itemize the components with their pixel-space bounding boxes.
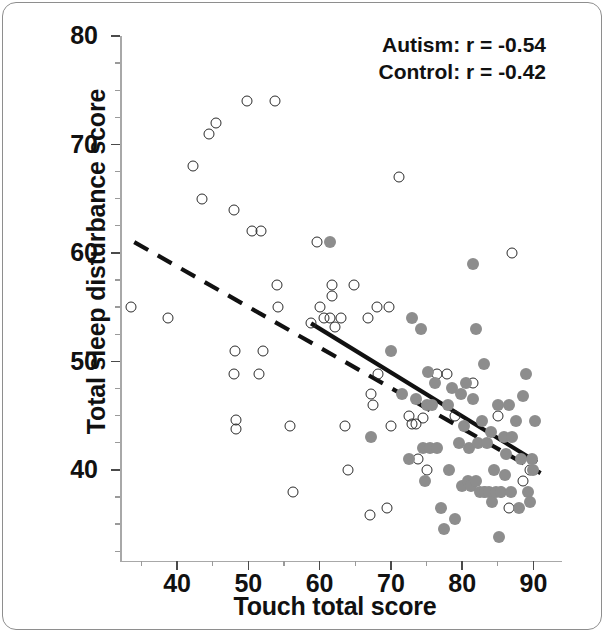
data-point-control	[382, 502, 393, 513]
data-point-control	[363, 312, 374, 323]
figure-container: Total sleep disturbance score Touch tota…	[0, 0, 607, 634]
legend-control: Control: r = -0.42	[379, 59, 546, 86]
data-point-autism	[365, 431, 377, 443]
data-point-control	[229, 204, 240, 215]
x-tick-label-40: 40	[163, 569, 191, 598]
data-point-autism	[510, 415, 522, 427]
data-point-control	[507, 247, 518, 258]
data-point-autism	[396, 388, 408, 400]
data-point-control	[517, 475, 528, 486]
data-point-autism	[517, 390, 529, 402]
data-point-autism	[458, 420, 470, 432]
data-point-autism	[506, 431, 518, 443]
data-point-control	[125, 302, 136, 313]
data-point-control	[368, 399, 379, 410]
data-point-autism	[455, 388, 467, 400]
data-point-autism	[500, 448, 512, 460]
x-tick-label-70: 70	[377, 569, 405, 598]
data-point-control	[211, 117, 222, 128]
data-point-control	[492, 410, 503, 421]
data-point-autism	[431, 442, 443, 454]
data-point-autism	[435, 502, 447, 514]
trendlines-layer	[120, 36, 562, 562]
data-point-control	[284, 421, 295, 432]
data-point-autism	[524, 496, 536, 508]
plot-area: 4050607080 405060708090 Autism: r = -0.5…	[120, 36, 562, 562]
data-point-autism	[470, 323, 482, 335]
x-tick-label-60: 60	[306, 569, 334, 598]
data-point-autism	[419, 475, 431, 487]
data-point-control	[385, 421, 396, 432]
data-point-control	[204, 128, 215, 139]
data-point-autism	[515, 453, 527, 465]
y-tick-label-50: 50	[70, 346, 98, 375]
data-point-autism	[422, 366, 434, 378]
data-point-control	[273, 302, 284, 313]
data-point-autism	[443, 464, 455, 476]
data-point-control	[441, 369, 452, 380]
data-point-control	[394, 171, 405, 182]
data-point-autism	[481, 437, 493, 449]
data-point-control	[421, 464, 432, 475]
data-point-control	[241, 96, 252, 107]
y-tick-50: 50	[111, 361, 120, 363]
data-point-autism	[426, 399, 438, 411]
data-point-control	[327, 280, 338, 291]
y-tick-40: 40	[111, 469, 120, 471]
data-point-control	[327, 291, 338, 302]
y-tick-label-40: 40	[70, 455, 98, 484]
data-point-autism	[415, 323, 427, 335]
data-point-autism	[478, 358, 490, 370]
data-point-autism	[429, 377, 441, 389]
data-point-autism	[324, 236, 336, 248]
data-point-control	[256, 226, 267, 237]
data-point-autism	[505, 486, 517, 498]
data-point-autism	[476, 415, 488, 427]
y-tick-80: 80	[111, 35, 120, 37]
legend-autism: Autism: r = -0.54	[379, 32, 546, 59]
data-point-autism	[486, 496, 498, 508]
data-point-autism	[527, 464, 539, 476]
data-point-autism	[403, 453, 415, 465]
data-point-autism	[449, 513, 461, 525]
data-point-autism	[442, 399, 454, 411]
data-point-autism	[467, 393, 479, 405]
data-point-autism	[520, 368, 532, 380]
data-point-autism	[493, 531, 505, 543]
data-point-control	[231, 423, 242, 434]
y-tick-70: 70	[111, 144, 120, 146]
data-point-control	[384, 302, 395, 313]
data-point-control	[306, 318, 317, 329]
data-point-control	[287, 486, 298, 497]
data-point-control	[271, 280, 282, 291]
data-point-control	[371, 302, 382, 313]
y-tick-60: 60	[111, 252, 120, 254]
legend: Autism: r = -0.54 Control: r = -0.42	[379, 32, 546, 86]
data-point-autism	[406, 312, 418, 324]
data-point-control	[229, 369, 240, 380]
data-point-control	[339, 421, 350, 432]
data-point-control	[343, 464, 354, 475]
data-point-control	[311, 237, 322, 248]
data-point-control	[163, 312, 174, 323]
data-point-control	[348, 280, 359, 291]
x-tick-label-50: 50	[234, 569, 262, 598]
data-point-autism	[499, 469, 511, 481]
data-point-autism	[467, 258, 479, 270]
data-point-control	[417, 412, 428, 423]
data-point-autism	[503, 399, 515, 411]
x-tick-label-80: 80	[448, 569, 476, 598]
data-point-control	[365, 388, 376, 399]
data-point-control	[314, 302, 325, 313]
y-tick-label-60: 60	[70, 238, 98, 267]
data-point-autism	[485, 426, 497, 438]
y-tick-label-70: 70	[70, 129, 98, 158]
x-tick-label-90: 90	[520, 569, 548, 598]
data-point-control	[270, 96, 281, 107]
data-point-control	[196, 193, 207, 204]
data-point-autism	[438, 523, 450, 535]
data-point-control	[254, 369, 265, 380]
data-point-control	[450, 410, 461, 421]
data-point-autism	[385, 345, 397, 357]
data-point-control	[257, 345, 268, 356]
